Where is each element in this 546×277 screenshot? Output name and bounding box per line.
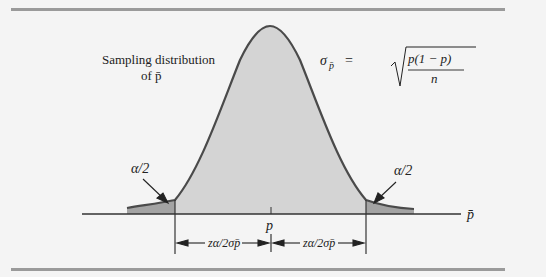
sampling-distribution-label-line2: of p̄ [141, 68, 162, 84]
formula-numerator: p(1 − p) [408, 51, 451, 67]
diagram-canvas [0, 0, 546, 277]
top-rule [11, 8, 505, 11]
right-tail-label: α/2 [394, 163, 412, 179]
equals-sign: = [345, 53, 353, 69]
sigma-subscript: p̄ [329, 60, 334, 71]
sigma-symbol: σ [320, 53, 327, 69]
right-interval-label: zα/2σp̄ [303, 236, 335, 251]
left-interval-label: zα/2σp̄ [208, 236, 240, 251]
bottom-rule [11, 268, 505, 271]
sampling-distribution-label: Sampling distribution [102, 52, 215, 68]
left-tail-label: α/2 [131, 161, 149, 177]
axis-label-pbar: p̄ [467, 207, 474, 223]
center-label-p: p [266, 218, 273, 234]
formula-denominator: n [431, 71, 438, 87]
